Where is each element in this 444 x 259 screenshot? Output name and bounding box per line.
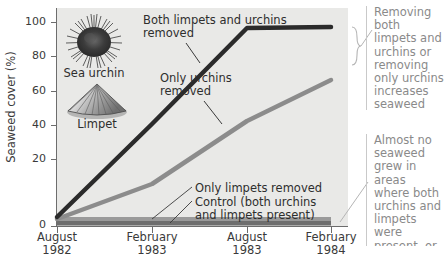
series-label-only-urchins: Only urchins removed xyxy=(160,72,232,98)
series-label-only-limpets: Only limpets removed xyxy=(195,182,322,195)
series-label-both-removed-line2: removed xyxy=(143,27,287,40)
sea-urchin-label: Sea urchin xyxy=(49,66,139,80)
leader-both-removed xyxy=(186,43,200,63)
annotation-note-top: Removing both limpets and urchins or rem… xyxy=(366,6,444,110)
series-label-both-removed: Both limpets and urchins removed xyxy=(143,14,287,40)
note-brace-top xyxy=(352,27,361,65)
series-label-control: Control (both urchins and limpets presen… xyxy=(195,196,335,222)
limpet-label: Limpet xyxy=(52,117,142,131)
series-label-only-urchins-line2: removed xyxy=(160,85,232,98)
note-leader-bottom xyxy=(340,182,368,222)
sea-urchin-illustration xyxy=(66,14,122,68)
leader-only-limpets xyxy=(152,187,192,219)
leader-only-urchins xyxy=(204,101,222,124)
limpet-illustration xyxy=(67,84,127,119)
annotation-note-bottom: Almost no seaweed grew in areas where bo… xyxy=(366,134,444,246)
